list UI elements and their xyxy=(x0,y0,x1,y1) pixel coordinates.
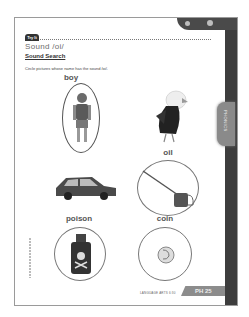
label-oil: oil xyxy=(148,148,188,157)
page-number-tab: PH 25 xyxy=(181,286,225,296)
coin-circle[interactable] xyxy=(138,227,192,281)
boy-icon xyxy=(63,84,101,154)
poison-bottle-icon xyxy=(55,228,107,282)
coin-icon xyxy=(139,228,193,282)
worksheet-page: PHONICS xyxy=(14,17,238,306)
side-tab-label: PHONICS xyxy=(223,110,228,132)
instructions: Circle pictures whose name has the sound… xyxy=(25,66,108,71)
copyright-vertical-text xyxy=(29,238,31,278)
decorative-frame xyxy=(225,18,237,306)
oil-circle[interactable] xyxy=(137,160,199,216)
page-title: Sound /oi/ xyxy=(25,42,64,51)
try-it-badge: Try It xyxy=(25,34,39,41)
label-poison: poison xyxy=(59,214,99,223)
car-icon xyxy=(52,172,120,202)
phonics-side-tab: PHONICS xyxy=(217,102,235,146)
footer-text: LANGUAGE ARTS 6:30 xyxy=(140,291,176,295)
section-subtitle: Sound Search xyxy=(25,53,65,59)
poison-circle[interactable] xyxy=(54,227,106,281)
eagle-icon xyxy=(148,88,193,146)
oil-can-icon xyxy=(138,161,200,217)
boy-circle[interactable] xyxy=(62,83,100,153)
label-boy: boy xyxy=(51,73,91,82)
corner-decoration xyxy=(177,18,237,30)
label-coin: coin xyxy=(145,214,185,223)
dotted-rule xyxy=(40,39,211,40)
